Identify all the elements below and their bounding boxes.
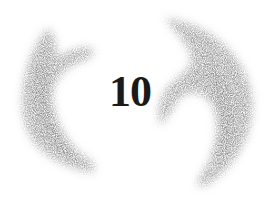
left-brush-stroke-icon: [22, 28, 95, 172]
chapter-heading: 10: [0, 0, 273, 202]
right-brush-stroke-icon: [158, 18, 252, 186]
chapter-number: 10: [100, 68, 160, 116]
